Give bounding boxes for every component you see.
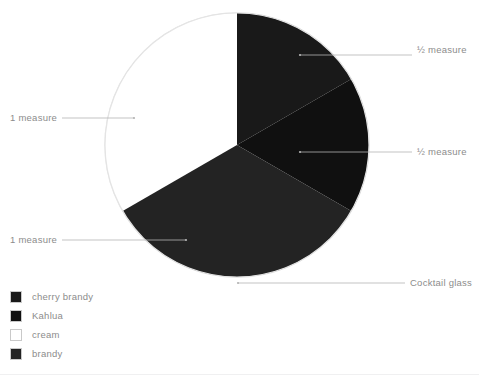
chart-legend: cherry brandy Kahlua cream brandy <box>10 287 150 363</box>
leader-line-cocktail-glass <box>237 282 405 284</box>
footer-divider <box>0 374 479 375</box>
legend-item-cream[interactable]: cream <box>10 325 150 344</box>
callout-brandy: 1 measure <box>10 235 57 245</box>
callout-cocktail-glass: Cocktail glass <box>410 278 472 288</box>
legend-item-kahlua[interactable]: Kahlua <box>10 306 150 325</box>
legend-label-cherry-brandy: cherry brandy <box>32 291 93 302</box>
callout-kahlua: ½ measure <box>417 147 467 157</box>
callout-cream: 1 measure <box>10 113 57 123</box>
legend-item-brandy[interactable]: brandy <box>10 344 150 363</box>
legend-swatch-brandy <box>10 348 22 360</box>
legend-swatch-cream <box>10 329 22 341</box>
callout-cherry-brandy: ½ measure <box>417 45 467 55</box>
legend-item-cherry-brandy[interactable]: cherry brandy <box>10 287 150 306</box>
pie-chart-figure: ½ measure ½ measure Cocktail glass 1 mea… <box>0 0 479 381</box>
legend-label-cream: cream <box>32 329 60 340</box>
legend-swatch-kahlua <box>10 310 22 322</box>
legend-swatch-cherry-brandy <box>10 291 22 303</box>
legend-label-kahlua: Kahlua <box>32 310 63 321</box>
legend-label-brandy: brandy <box>32 348 63 359</box>
